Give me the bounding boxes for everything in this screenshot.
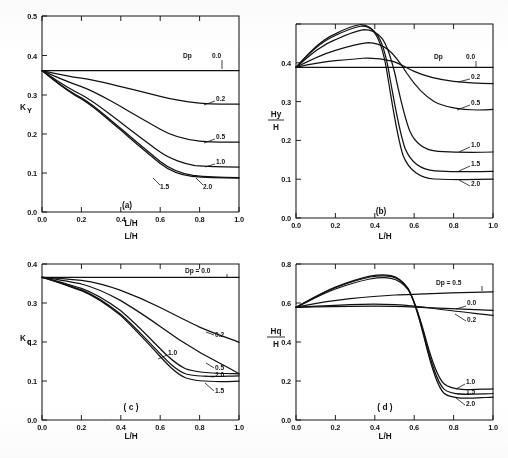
panel-c-xtick-2: 0.4: [116, 423, 127, 432]
panel-c-xtick-5: 1.0: [234, 423, 244, 432]
panel-b-xtick-4: 0.8: [449, 221, 459, 229]
panel-d-x-axis-title-top: L/H: [378, 232, 391, 241]
panel-b-xtick-3: 0.6: [409, 221, 419, 229]
panel-d-ytick-3: 0.6: [281, 299, 291, 308]
panel-d-xtick-3: 0.6: [409, 423, 419, 432]
panel-c-curves: [42, 277, 239, 381]
panel-a-ytick-0: 0.0: [27, 208, 37, 217]
panel-d-x-axis-title-shared: L/H: [378, 232, 391, 241]
panel-d-y-ticks: [296, 264, 301, 420]
panel-b-series-label-4: 1.5: [471, 160, 480, 167]
panel-b-series-label-5: 2.0: [471, 180, 480, 187]
panel-c-y-axis-title: K: [20, 334, 26, 343]
panel-a-ytick-3: 0.3: [27, 91, 37, 100]
panel-b-plot: 0.0 0.1 0.2 0.3 0.4 0.0 0.2 0.4 0.6 0.8 …: [254, 0, 508, 229]
panel-c-series-label-3: 1.0: [168, 349, 177, 356]
panel-d-ytick-4: 0.8: [281, 260, 291, 269]
panel-a-series-label-4: 1.5: [160, 183, 169, 190]
panel-b-param-name: Dp: [434, 53, 443, 61]
panel-a: 0.0 0.1 0.2 0.3 0.4 0.5 0.0 0.2 0.4 0.6 …: [0, 0, 254, 229]
panel-c-plot: L/H 0.0 0.1 0.2 0.3 0.4 0: [0, 229, 254, 458]
panel-c-xtick-4: 0.8: [195, 423, 205, 432]
panel-c-xtick-0: 0.0: [37, 423, 47, 432]
panel-a-ytick-1: 0.1: [27, 169, 37, 178]
panel-b-ytick-3: 0.3: [281, 98, 291, 107]
panel-d-xtick-1: 0.2: [331, 423, 341, 432]
panel-a-series-label-2: 0.5: [216, 133, 225, 140]
panel-b: 0.0 0.1 0.2 0.3 0.4 0.0 0.2 0.4 0.6 0.8 …: [254, 0, 508, 229]
panel-b-xtick-1: 0.2: [331, 221, 341, 229]
panel-d-series-label-0: 0.0: [467, 299, 476, 306]
panel-a-ytick-2: 0.2: [27, 130, 37, 139]
panel-c-param-label: Dp = 0.0: [185, 267, 211, 275]
panel-c-series-label-2: 0.5: [215, 364, 224, 371]
panel-c-ytick-0: 0.0: [27, 416, 37, 425]
panel-d-axes: [296, 264, 493, 420]
panel-d-series-label-3: 1.0: [466, 378, 475, 385]
panel-a-xtick-4: 0.8: [195, 215, 205, 224]
panel-d-series-label-4: 1.5: [466, 388, 475, 395]
panel-a-x-axis-title: L/H: [124, 219, 137, 228]
panel-d-ytick-0: 0.0: [281, 416, 291, 425]
panel-b-y-axis-denominator: H: [273, 123, 279, 132]
panel-c-xtick-1: 0.2: [77, 423, 87, 432]
panel-c-x-axis-title: L/H: [124, 432, 137, 441]
panel-a-param-name: Dp: [183, 52, 192, 60]
panel-a-y-ticks: [42, 16, 47, 212]
panel-c-ytick-3: 0.3: [27, 299, 37, 308]
panel-c-series-label-4: 1.5: [215, 387, 224, 394]
panel-b-xtick-5: 1.0: [488, 221, 498, 229]
panel-b-ytick-0: 0.0: [281, 214, 291, 223]
panel-a-xtick-1: 0.2: [77, 215, 87, 224]
panel-b-ytick-4: 0.4: [281, 59, 292, 68]
panel-d-y-axis-denominator: H: [273, 340, 279, 349]
panel-c-ytick-1: 0.1: [27, 377, 37, 386]
panel-c-ytick-4: 0.4: [27, 260, 38, 269]
panel-b-label: (b): [376, 206, 387, 216]
panel-b-xtick-2: 0.4: [370, 221, 381, 229]
panel-a-xtick-5: 1.0: [234, 215, 244, 224]
panel-d-xtick-0: 0.0: [291, 423, 301, 432]
panel-b-curve-labels: Dp 0.0 0.2 0.5 1.0 1.5 2.0: [434, 53, 480, 187]
panel-b-y-axis-numerator: Hy: [271, 110, 282, 119]
panel-c-series-label-1: 0.2: [215, 331, 224, 338]
panel-d-curves: [296, 275, 493, 398]
panel-c-y-axis-subscript: q: [27, 337, 32, 346]
panel-c-x-axis-title-top: L/H: [124, 232, 137, 241]
panel-a-curve-labels: Dp 0.0 0.2 0.5 1.0 1.5 2.0: [153, 52, 225, 190]
panel-a-series-label-3: 1.0: [216, 158, 225, 165]
panel-d-xtick-2: 0.4: [370, 423, 381, 432]
panel-d-series-label-5: 2.0: [466, 400, 475, 407]
panel-a-xtick-3: 0.6: [155, 215, 165, 224]
panel-b-series-label-2: 0.5: [471, 99, 480, 106]
panel-a-series-label-1: 0.2: [216, 95, 225, 102]
panel-d-y-axis-numerator: Hq: [271, 327, 282, 336]
panel-c-series-label-5: 2.0: [215, 371, 224, 378]
panel-c: L/H 0.0 0.1 0.2 0.3 0.4 0: [0, 229, 254, 458]
panel-c-label: ( c ): [124, 402, 139, 412]
panel-b-series-label-1: 0.2: [471, 73, 480, 80]
panel-a-series-label-5: 2.0: [203, 183, 212, 190]
panel-a-series-label-0: 0.0: [212, 52, 221, 59]
panel-a-ytick-4: 0.4: [27, 52, 38, 61]
panel-b-ytick-1: 0.1: [281, 175, 291, 184]
panel-b-series-label-0: 0.0: [466, 53, 475, 60]
panel-a-y-axis-title: K: [20, 103, 26, 112]
panel-c-y-ticks: [42, 264, 47, 420]
panel-b-xtick-0: 0.0: [291, 221, 301, 229]
panel-b-y-axis-title: Hy H: [268, 110, 284, 132]
panel-a-curves: [42, 71, 239, 178]
panel-a-xtick-0: 0.0: [37, 215, 47, 224]
panel-b-x-axis-title-shared: L/H: [124, 232, 137, 241]
panel-b-y-ticks: [296, 24, 301, 218]
panel-d-label: ( d ): [377, 402, 393, 412]
panel-d: L/H 0.0 0.2 0.4 0.6 0.8 0: [254, 229, 508, 458]
panel-d-ytick-2: 0.4: [281, 338, 292, 347]
panel-d-x-axis-title: L/H: [378, 432, 391, 441]
panel-a-y-axis-subscript: Y: [27, 106, 32, 115]
panel-d-xtick-5: 1.0: [488, 423, 498, 432]
panel-b-ytick-2: 0.2: [281, 136, 291, 145]
panel-a-label: (a): [122, 200, 132, 210]
panel-d-ytick-1: 0.2: [281, 377, 291, 386]
panel-b-series-label-3: 1.0: [471, 141, 480, 148]
